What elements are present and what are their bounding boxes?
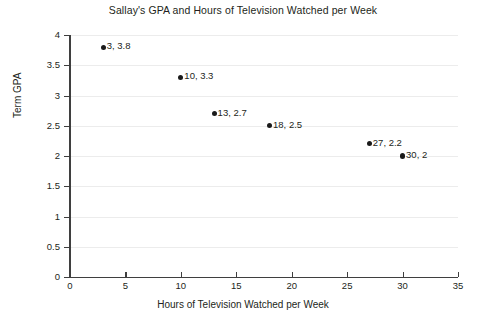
x-tick-mark [403, 272, 404, 277]
x-tick-label: 25 [327, 280, 367, 291]
y-tick-label-wrap: 2 [0, 150, 60, 162]
y-tick-label: 0.5 [47, 241, 60, 252]
x-tick-label: 20 [272, 280, 312, 291]
data-point-marker [101, 45, 106, 50]
data-point-marker [267, 123, 272, 128]
x-tick-label: 0 [50, 280, 90, 291]
y-tick-label: 1.5 [47, 180, 60, 191]
data-point-label: 27, 2.2 [373, 137, 402, 148]
y-tick-label-wrap: 1 [0, 211, 60, 223]
x-tick-label: 35 [438, 280, 478, 291]
x-tick-mark [292, 272, 293, 277]
data-point-label: 30, 2 [406, 149, 427, 160]
y-tick-mark [64, 35, 69, 36]
chart-title: Sallay's GPA and Hours of Television Wat… [0, 4, 486, 16]
y-tick-mark [64, 126, 69, 127]
y-axis-title: Term GPA [12, 73, 23, 118]
y-tick-label: 3 [55, 90, 60, 101]
x-tick-label: 15 [216, 280, 256, 291]
gridline [70, 35, 458, 36]
data-point-label: 13, 2.7 [218, 107, 247, 118]
y-tick-label-wrap: 1.5 [0, 180, 60, 192]
data-point-label: 18, 2.5 [273, 119, 302, 130]
y-tick-label: 2 [55, 150, 60, 161]
x-tick-mark [125, 272, 126, 277]
y-tick-mark [64, 96, 69, 97]
y-tick-label: 4 [55, 29, 60, 40]
y-tick-label-wrap: 2.5 [0, 120, 60, 132]
data-point-marker [212, 111, 217, 116]
data-point-marker [367, 141, 372, 146]
data-point-label: 10, 3.3 [184, 70, 213, 81]
data-point-marker [178, 75, 183, 80]
x-axis-title: Hours of Television Watched per Week [0, 299, 486, 310]
gridline [70, 247, 458, 248]
x-tick-mark [236, 272, 237, 277]
y-axis-line [69, 35, 71, 278]
x-axis-line [69, 277, 458, 278]
scatter-chart: Sallay's GPA and Hours of Television Wat… [0, 0, 486, 323]
gridline [70, 96, 458, 97]
gridline [70, 186, 458, 187]
y-tick-label-wrap: 0.5 [0, 241, 60, 253]
x-tick-mark [70, 272, 71, 277]
y-tick-mark [64, 156, 69, 157]
y-tick-label-wrap: 3.5 [0, 59, 60, 71]
y-tick-label: 3.5 [47, 59, 60, 70]
y-tick-mark [64, 247, 69, 248]
x-tick-label: 30 [383, 280, 423, 291]
y-tick-mark [64, 65, 69, 66]
gridline [70, 217, 458, 218]
data-point-label: 3, 3.8 [107, 40, 131, 51]
data-point-marker [400, 153, 405, 158]
gridline [70, 65, 458, 66]
y-tick-label: 2.5 [47, 120, 60, 131]
y-tick-mark [64, 277, 69, 278]
x-tick-mark [458, 272, 459, 277]
y-tick-label-wrap: 3 [0, 90, 60, 102]
y-tick-label-wrap: 4 [0, 29, 60, 41]
y-tick-mark [64, 186, 69, 187]
plot-area: 3, 3.810, 3.313, 2.718, 2.527, 2.230, 2 [70, 35, 458, 277]
x-tick-label: 5 [105, 280, 145, 291]
y-tick-mark [64, 217, 69, 218]
x-tick-label: 10 [161, 280, 201, 291]
y-tick-label: 1 [55, 211, 60, 222]
x-tick-mark [347, 272, 348, 277]
x-tick-mark [181, 272, 182, 277]
gridline [70, 126, 458, 127]
